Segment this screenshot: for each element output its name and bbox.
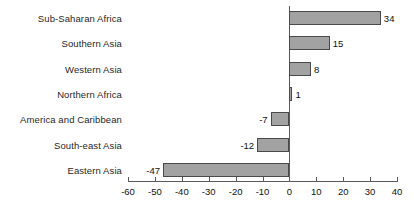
x-axis-tick-label: -20 — [229, 186, 243, 197]
bar-value-label: -47 — [146, 165, 160, 176]
bar-chart: Sub-Saharan AfricaSouthern AsiaWestern A… — [0, 0, 414, 217]
x-axis-tick-label: -60 — [121, 186, 135, 197]
x-axis-tick-label: 30 — [365, 186, 376, 197]
bar-value-label: 15 — [333, 38, 344, 49]
bar — [289, 62, 311, 76]
x-axis-tick — [155, 177, 156, 181]
bar — [289, 36, 329, 50]
x-axis-tick-label: -10 — [256, 186, 270, 197]
bar — [289, 11, 380, 25]
x-axis-tick — [316, 177, 317, 181]
bar-value-label: 8 — [314, 64, 319, 75]
x-axis-line — [128, 181, 398, 182]
x-axis-tick — [182, 177, 183, 181]
x-axis-tick — [370, 177, 371, 181]
bar — [271, 112, 290, 126]
x-axis-tick — [236, 177, 237, 181]
bar-value-label: -12 — [240, 140, 254, 151]
x-axis-tick-label: 10 — [311, 186, 322, 197]
x-axis-tick — [289, 177, 290, 181]
bar — [289, 87, 292, 101]
bar — [257, 138, 289, 152]
x-axis-tick-label: -50 — [148, 186, 162, 197]
x-axis-tick — [397, 177, 398, 181]
bar-value-label: -7 — [259, 114, 267, 125]
x-axis-tick — [343, 177, 344, 181]
plot-area: -60-50-40-30-20-10010203040 341581-7-12-… — [0, 0, 414, 217]
x-axis-tick — [128, 177, 129, 181]
bar-value-label: 1 — [295, 89, 300, 100]
x-axis-tick-label: 40 — [392, 186, 403, 197]
x-axis-tick — [209, 177, 210, 181]
x-axis-tick — [263, 177, 264, 181]
bar — [163, 163, 289, 177]
x-axis-tick-label: 0 — [287, 186, 292, 197]
bar-value-label: 34 — [384, 13, 395, 24]
x-axis-tick-label: 20 — [338, 186, 349, 197]
x-axis-tick-label: -30 — [202, 186, 216, 197]
x-axis-tick-label: -40 — [175, 186, 189, 197]
